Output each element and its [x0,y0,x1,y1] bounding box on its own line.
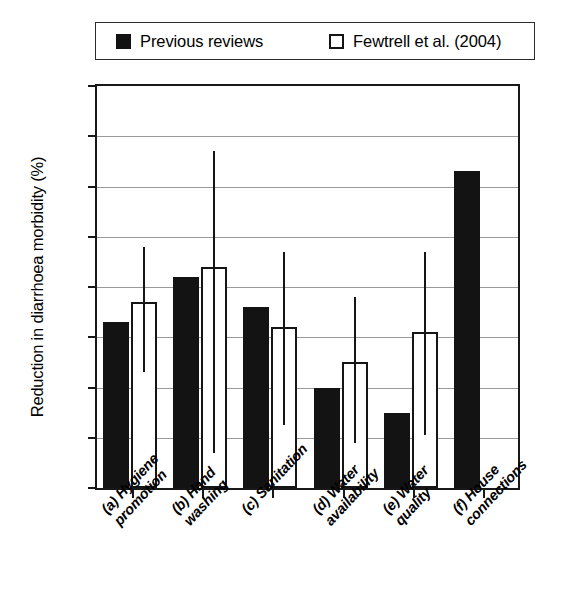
plot-inner: 01020304050607080 [97,86,518,488]
y-tick-mark [88,387,97,389]
error-bar [213,151,215,453]
hollow-square-icon [329,34,344,49]
bar-previous-reviews [454,171,480,488]
gridline [97,136,518,137]
error-bar [354,297,356,443]
bar-previous-reviews [243,307,269,488]
y-tick-mark [88,236,97,238]
y-tick-mark [88,186,97,188]
y-axis-title: Reduction in diarrhoea morbidity (%) [22,84,52,490]
plot-area: 01020304050607080 [95,84,520,490]
filled-square-icon [116,34,131,49]
y-tick-mark [88,286,97,288]
legend-label-previous-reviews: Previous reviews [140,33,263,50]
bar-previous-reviews [314,388,340,489]
y-tick-mark [88,135,97,137]
error-bar [424,252,426,435]
y-tick-mark [88,85,97,87]
error-bar [143,247,145,373]
chart-figure: Previous reviews Fewtrell et al. (2004) … [0,0,572,611]
y-tick-mark [88,437,97,439]
y-tick-mark [88,336,97,338]
y-tick-mark [88,487,97,489]
error-bar [283,252,285,425]
bar-previous-reviews [173,277,199,488]
chart-legend: Previous reviews Fewtrell et al. (2004) [95,22,535,60]
legend-item-previous-reviews: Previous reviews [116,23,263,59]
legend-item-fewtrell: Fewtrell et al. (2004) [329,23,501,59]
legend-label-fewtrell: Fewtrell et al. (2004) [353,33,501,50]
x-axis-labels: (a) Hygienepromotion(b) Handwashing(c) S… [0,500,572,611]
bar-previous-reviews [103,322,129,488]
